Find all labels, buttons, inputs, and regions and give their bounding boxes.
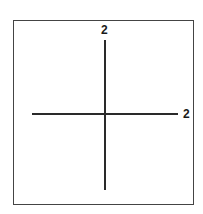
horizontal-axis-label: 2 (183, 108, 190, 120)
vertical-axis-label: 2 (101, 24, 108, 36)
vertical-axis-line (104, 40, 106, 190)
